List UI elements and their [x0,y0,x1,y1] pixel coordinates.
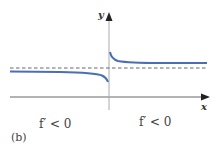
y-axis-label: y [98,9,104,20]
y-axis-arrow-icon [106,12,113,21]
left-curve-branch [10,72,108,83]
graph-canvas [0,0,217,154]
graph-figure: y x f′ < 0 f′ < 0 (b) [0,0,217,154]
figure-caption: (b) [11,131,27,144]
right-curve-branch [110,52,207,63]
x-axis-arrow-icon [201,94,210,101]
left-derivative-annotation: f′ < 0 [39,117,71,131]
right-derivative-annotation: f′ < 0 [139,115,171,129]
x-axis-label: x [201,101,207,112]
